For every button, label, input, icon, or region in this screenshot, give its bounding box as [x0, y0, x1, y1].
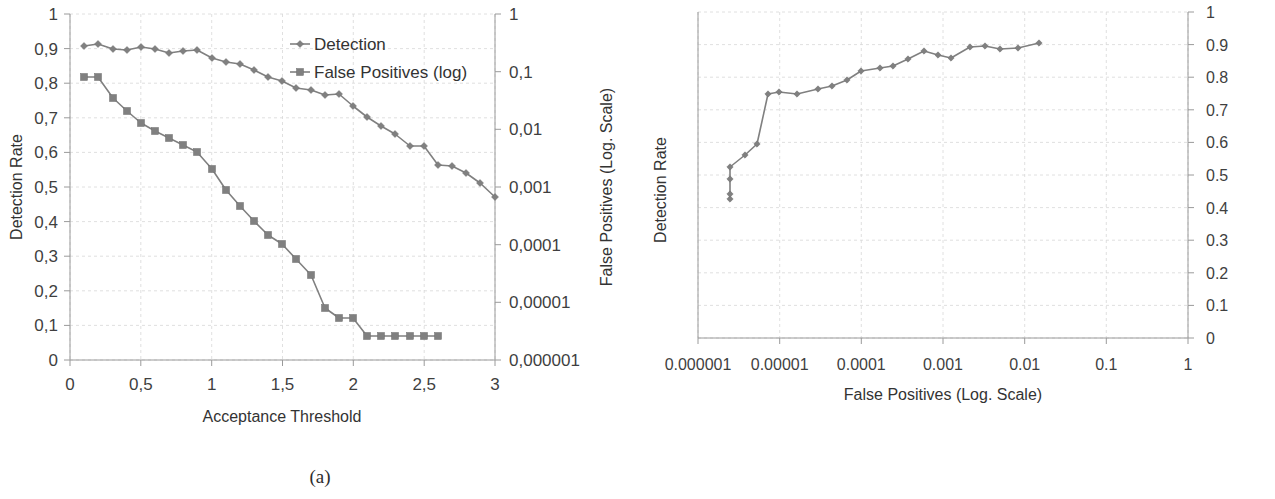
- chart-b-x-tick-labels: 0.000001 0.00001 0.0001 0.001 0.01 0.1 1: [665, 356, 1193, 373]
- panel-b: 1 0.9 0.8 0.7 0.6 0.5 0.4 0.3 0.2 0.1 0 …: [640, 0, 1275, 499]
- chart-b-y-axis-title: Detection Rate: [652, 137, 669, 243]
- x-tick-label: 0.01: [1009, 356, 1040, 373]
- panel-a-caption: (a): [0, 466, 640, 488]
- y-left-tick-label: 0,2: [34, 282, 58, 301]
- chart-a-legend: Detection False Positives (log): [290, 35, 467, 82]
- y-right-tick-label: 0,01: [509, 120, 542, 139]
- x-tick-label: 0.0001: [837, 356, 886, 373]
- y-tick-label: 0.5: [1206, 167, 1228, 184]
- detection-rate-line: [730, 43, 1039, 199]
- y-left-tick-label: 0,4: [34, 213, 58, 232]
- x-tick-label: 2: [349, 375, 358, 394]
- chart-b-gridlines: [698, 12, 1188, 338]
- y-left-tick-label: 0,1: [34, 316, 58, 335]
- x-tick-label: 1,5: [271, 375, 295, 394]
- panel-a: 1 0,9 0,8 0,7 0,6 0,5 0,4 0,3 0,2 0,1 0 …: [0, 0, 640, 499]
- y-tick-label: 0.4: [1206, 200, 1228, 217]
- y-left-tick-label: 0,5: [34, 178, 58, 197]
- chart-a-left-ticks: [64, 14, 70, 360]
- y-tick-label: 0: [1206, 330, 1215, 347]
- y-right-tick-label: 0,00001: [509, 293, 570, 312]
- figure-root: 1 0,9 0,8 0,7 0,6 0,5 0,4 0,3 0,2 0,1 0 …: [0, 0, 1275, 499]
- y-tick-label: 0.3: [1206, 232, 1228, 249]
- x-tick-label: 0.1: [1095, 356, 1117, 373]
- y-tick-label: 1: [1206, 4, 1215, 21]
- chart-a-x-tick-labels: 0 0,5 1 1,5 2 2,5 3: [65, 375, 499, 394]
- chart-a-svg: 1 0,9 0,8 0,7 0,6 0,5 0,4 0,3 0,2 0,1 0 …: [0, 0, 640, 460]
- legend-item-detection[interactable]: Detection: [290, 35, 386, 54]
- x-tick-label: 1: [1184, 356, 1193, 373]
- chart-b-y-tick-labels: 1 0.9 0.8 0.7 0.6 0.5 0.4 0.3 0.2 0.1 0: [1206, 4, 1228, 347]
- y-left-tick-label: 0,6: [34, 143, 58, 162]
- y-right-tick-label: 0,000001: [509, 351, 580, 370]
- chart-a-x-ticks: [70, 360, 495, 366]
- square-marker: [297, 69, 304, 76]
- chart-b-x-ticks: [698, 338, 1188, 344]
- x-tick-label: 0.001: [923, 356, 963, 373]
- false-positives-markers: [81, 74, 442, 340]
- y-tick-label: 0.7: [1206, 102, 1228, 119]
- y-tick-label: 0.1: [1206, 297, 1228, 314]
- y-right-tick-label: 0,001: [509, 178, 552, 197]
- diamond-marker: [297, 41, 304, 48]
- y-tick-label: 0.8: [1206, 69, 1228, 86]
- x-tick-label: 0,5: [129, 375, 153, 394]
- x-tick-label: 0: [65, 375, 74, 394]
- y-right-tick-label: 1: [509, 5, 518, 24]
- y-left-tick-label: 0: [49, 351, 58, 370]
- x-tick-label: 0.000001: [665, 356, 732, 373]
- false-positives-line: [84, 77, 438, 336]
- chart-a-y-left-axis-title: Detection Rate: [8, 134, 25, 240]
- chart-b-x-axis-title: False Positives (Log. Scale): [844, 386, 1042, 403]
- x-tick-label: 3: [490, 375, 499, 394]
- chart-a-y-right-axis-title: False Positives (Log. Scale): [598, 88, 615, 286]
- chart-b-svg: 1 0.9 0.8 0.7 0.6 0.5 0.4 0.3 0.2 0.1 0 …: [640, 0, 1275, 460]
- y-right-tick-label: 0,1: [509, 63, 533, 82]
- chart-b-y-ticks: [1188, 12, 1194, 338]
- legend-label-detection: Detection: [314, 35, 386, 54]
- chart-a-left-tick-labels: 1 0,9 0,8 0,7 0,6 0,5 0,4 0,3 0,2 0,1 0: [34, 5, 58, 370]
- y-tick-label: 0.6: [1206, 134, 1228, 151]
- chart-b-series-detection-rate: [727, 40, 1042, 202]
- legend-item-false-positives[interactable]: False Positives (log): [290, 63, 467, 82]
- x-tick-label: 2,5: [412, 375, 436, 394]
- x-tick-label: 1: [207, 375, 216, 394]
- detection-rate-markers: [727, 40, 1042, 202]
- y-tick-label: 0.2: [1206, 265, 1228, 282]
- chart-a-x-axis-title: Acceptance Threshold: [203, 408, 362, 425]
- y-right-tick-label: 0,0001: [509, 236, 561, 255]
- legend-label-false-positives: False Positives (log): [314, 63, 467, 82]
- chart-a-right-ticks: [495, 14, 501, 360]
- chart-a-series-false-positives: [81, 74, 442, 340]
- y-left-tick-label: 0,8: [34, 74, 58, 93]
- y-left-tick-label: 0,9: [34, 40, 58, 59]
- x-tick-label: 0.00001: [751, 356, 809, 373]
- y-left-tick-label: 0,3: [34, 247, 58, 266]
- y-left-tick-label: 0,7: [34, 109, 58, 128]
- y-left-tick-label: 1: [49, 5, 58, 24]
- chart-a-right-tick-labels: 1 0,1 0,01 0,001 0,0001 0,00001 0,000001: [509, 5, 580, 370]
- y-tick-label: 0.9: [1206, 37, 1228, 54]
